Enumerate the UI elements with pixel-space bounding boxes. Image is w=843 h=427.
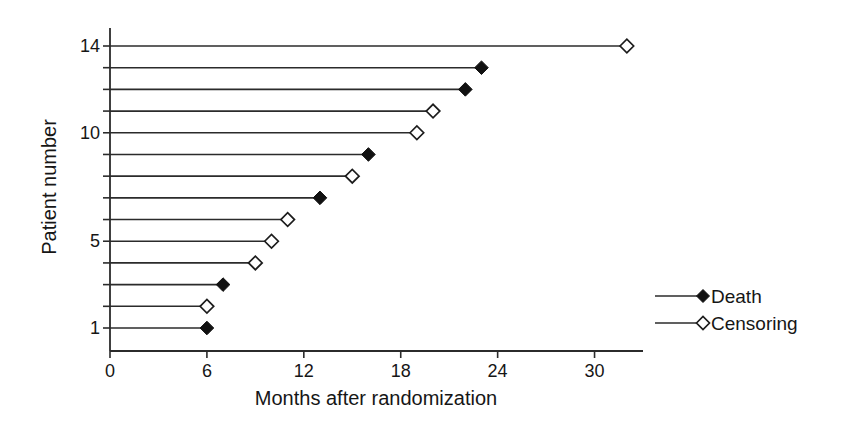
filled-diamond-icon — [697, 290, 710, 303]
censoring-marker-open-diamond-icon — [410, 126, 424, 140]
legend-death-label: Death — [711, 286, 762, 307]
censoring-marker-open-diamond-icon — [281, 213, 295, 227]
death-marker-filled-diamond-icon — [459, 83, 473, 97]
x-tick-label: 30 — [585, 361, 605, 381]
y-tick-label: 14 — [80, 36, 100, 56]
chart-svg: 0612182430151014 Months after randomizat… — [0, 0, 843, 427]
x-tick-label: 24 — [488, 361, 508, 381]
y-axis-label: Patient number — [38, 119, 60, 255]
x-tick-label: 0 — [105, 361, 115, 381]
legend-item-censoring: Censoring — [655, 313, 798, 334]
legend-item-death: Death — [655, 286, 762, 307]
censoring-marker-open-diamond-icon — [345, 169, 359, 183]
death-marker-filled-diamond-icon — [200, 321, 214, 335]
death-marker-filled-diamond-icon — [216, 278, 230, 292]
y-tick-label: 5 — [90, 231, 100, 251]
censoring-marker-open-diamond-icon — [620, 39, 634, 53]
legend-censoring-label: Censoring — [711, 313, 798, 334]
death-marker-filled-diamond-icon — [362, 148, 376, 162]
censoring-marker-open-diamond-icon — [200, 300, 214, 314]
plot-area: 0612182430151014 — [80, 28, 643, 381]
death-marker-filled-diamond-icon — [313, 191, 327, 205]
y-tick-label: 1 — [90, 318, 100, 338]
legend: Death Censoring — [655, 286, 798, 334]
x-axis-label: Months after randomization — [255, 387, 497, 409]
patient-event-chart-figure: 0612182430151014 Months after randomizat… — [0, 0, 843, 427]
x-tick-label: 6 — [202, 361, 212, 381]
x-tick-label: 12 — [294, 361, 314, 381]
open-diamond-icon — [697, 317, 710, 330]
censoring-marker-open-diamond-icon — [265, 234, 279, 248]
y-tick-label: 10 — [80, 123, 100, 143]
censoring-marker-open-diamond-icon — [426, 104, 440, 118]
censoring-marker-open-diamond-icon — [249, 256, 263, 270]
x-tick-label: 18 — [391, 361, 411, 381]
death-marker-filled-diamond-icon — [475, 61, 489, 75]
